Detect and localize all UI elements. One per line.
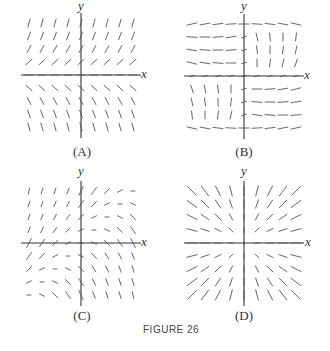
vector-segment <box>105 253 109 259</box>
vector-segment <box>105 203 110 205</box>
vector-segment <box>201 255 209 258</box>
vector-segment <box>26 85 32 90</box>
vector-segment <box>267 278 272 286</box>
vector-segment <box>106 110 109 118</box>
vector-segment <box>41 110 44 118</box>
vector-segment <box>270 59 271 67</box>
vector-segment <box>191 85 194 93</box>
vector-segment <box>255 228 259 232</box>
vector-field-a <box>0 0 165 165</box>
vector-segment <box>40 268 45 270</box>
vector-segment <box>27 253 32 260</box>
vector-segment <box>252 128 262 129</box>
vector-segment <box>201 278 209 286</box>
vector-segment <box>67 188 69 194</box>
vector-segment <box>104 59 110 64</box>
vector-segment <box>117 85 123 90</box>
vector-segment <box>187 49 197 51</box>
vector-segment <box>131 46 135 53</box>
vector-segment <box>93 19 95 27</box>
vector-segment <box>54 123 56 131</box>
vector-segment <box>187 127 197 129</box>
vector-segment <box>200 23 210 25</box>
vector-segment <box>67 110 70 118</box>
vector-segment <box>229 228 233 232</box>
vector-segment <box>118 228 123 233</box>
vector-segment <box>291 127 301 129</box>
vector-segment <box>215 214 221 220</box>
vector-segment <box>265 23 275 24</box>
vector-segment <box>53 46 57 53</box>
vector-segment <box>132 32 135 40</box>
vector-segment <box>132 19 134 27</box>
vector-segment <box>270 33 271 41</box>
vector-segment <box>279 255 287 258</box>
vector-segment <box>282 59 284 67</box>
vector-segment <box>66 215 69 220</box>
vector-segment <box>216 290 221 300</box>
vector-segment <box>53 281 58 283</box>
vector-segment <box>213 37 223 38</box>
vector-segment <box>218 85 219 93</box>
vector-segment <box>28 123 30 131</box>
vector-segment <box>230 111 232 119</box>
vector-segment <box>231 98 232 106</box>
vector-segment <box>200 62 210 64</box>
vector-segment <box>291 115 301 116</box>
vector-segment <box>67 19 69 27</box>
vector-segment <box>279 214 287 219</box>
vector-segment <box>267 214 273 220</box>
vector-segment <box>131 215 136 220</box>
vector-segment <box>226 36 236 38</box>
vector-segment <box>67 32 70 40</box>
vector-segment <box>119 123 121 131</box>
vector-segment <box>92 188 97 195</box>
vector-segment <box>40 98 44 105</box>
x-axis-label-b: x <box>304 67 310 83</box>
y-axis-label-d: y <box>241 163 247 179</box>
vector-segment <box>278 127 288 129</box>
vector-segment <box>132 279 134 286</box>
vector-segment <box>39 59 45 64</box>
vector-segment <box>256 278 259 286</box>
vector-segment <box>131 227 136 234</box>
vector-segment <box>252 102 262 103</box>
vector-segment <box>117 59 123 64</box>
vector-segment <box>132 110 135 118</box>
vector-segment <box>92 202 97 207</box>
vector-segment <box>256 290 259 300</box>
x-axis-label-d: x <box>305 234 311 250</box>
vector-segment <box>257 46 258 54</box>
vector-segment <box>41 214 43 220</box>
vector-segment <box>91 85 97 90</box>
vector-segment <box>187 23 197 25</box>
vector-segment <box>291 255 301 258</box>
vector-segment <box>92 46 96 53</box>
vector-segment <box>268 290 273 300</box>
vector-segment <box>267 228 273 231</box>
vector-segment <box>201 290 208 300</box>
vector-segment <box>105 266 108 272</box>
vector-segment <box>105 98 109 105</box>
vector-segment <box>252 114 262 116</box>
vector-segment <box>201 214 209 219</box>
vector-segment <box>28 227 30 233</box>
vector-segment <box>119 292 121 299</box>
vector-segment <box>41 188 43 194</box>
vector-segment <box>187 267 197 272</box>
vector-segment <box>41 227 44 232</box>
vector-segment <box>229 266 232 272</box>
vector-segment <box>92 254 97 259</box>
vector-segment <box>291 278 301 285</box>
vector-segment <box>93 110 96 118</box>
vector-segment <box>40 46 44 53</box>
vector-segment <box>54 214 57 219</box>
vector-segment <box>187 229 197 232</box>
vector-segment <box>295 59 298 67</box>
vector-segment <box>192 111 193 119</box>
vector-segment <box>256 33 258 41</box>
vector-segment <box>279 200 287 208</box>
vector-segment <box>106 279 109 285</box>
caption-b: (B) <box>235 144 252 160</box>
vector-segment <box>118 216 123 218</box>
